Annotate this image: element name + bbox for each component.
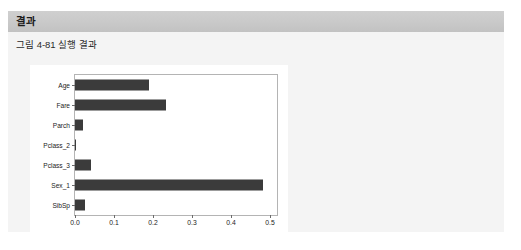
bar-sex_1 <box>75 180 263 191</box>
chart-plot-area: AgeFareParchPclass_2Pclass_3Sex_1SibSp0.… <box>74 74 278 216</box>
x-axis-label-0.5: 0.5 <box>265 219 274 226</box>
y-axis-label-sex_1: Sex_1 <box>51 182 70 189</box>
panel-header: 결과 <box>8 11 504 32</box>
result-panel: 결과 그림 4-81 실행 결과 AgeFareParchPclass_2Pcl… <box>8 11 504 232</box>
y-axis-tick <box>72 165 75 166</box>
figure-caption: 그림 4-81 실행 결과 <box>16 38 97 51</box>
x-axis-tick <box>75 215 76 218</box>
y-axis-tick <box>72 85 75 86</box>
bar-row <box>75 135 277 155</box>
y-axis-tick <box>72 145 75 146</box>
y-axis-label-parch: Parch <box>53 122 70 129</box>
bar-row <box>75 155 277 175</box>
x-axis-label-0.0: 0.0 <box>70 219 79 226</box>
bar-pclass_2 <box>75 140 76 151</box>
bar-row <box>75 115 277 135</box>
bar-pclass_3 <box>75 160 91 171</box>
bar-row <box>75 195 277 215</box>
y-axis-label-fare: Fare <box>56 102 70 109</box>
page-title: 결과 <box>16 14 36 28</box>
x-axis-tick <box>153 215 154 218</box>
bar-row <box>75 75 277 95</box>
y-axis-tick <box>72 105 75 106</box>
x-axis-tick <box>231 215 232 218</box>
chart-figure: AgeFareParchPclass_2Pclass_3Sex_1SibSp0.… <box>30 65 288 232</box>
x-axis-label-0.3: 0.3 <box>187 219 196 226</box>
x-axis-label-0.2: 0.2 <box>148 219 157 226</box>
y-axis-label-age: Age <box>58 82 70 89</box>
y-axis-tick <box>72 125 75 126</box>
x-axis-label-0.4: 0.4 <box>226 219 235 226</box>
bar-series <box>75 75 277 215</box>
bar-row <box>75 175 277 195</box>
x-axis-tick <box>114 215 115 218</box>
bar-row <box>75 95 277 115</box>
x-axis-tick <box>192 215 193 218</box>
bar-parch <box>75 120 83 131</box>
y-axis-label-sibsp: SibSp <box>52 202 70 209</box>
y-axis-label-pclass_2: Pclass_2 <box>43 142 70 149</box>
y-axis-tick <box>72 185 75 186</box>
y-axis-label-pclass_3: Pclass_3 <box>43 162 70 169</box>
bar-fare <box>75 100 166 111</box>
y-axis-tick <box>72 205 75 206</box>
bar-age <box>75 80 149 91</box>
x-axis-label-0.1: 0.1 <box>109 219 118 226</box>
bar-sibsp <box>75 200 85 211</box>
x-axis-tick <box>270 215 271 218</box>
